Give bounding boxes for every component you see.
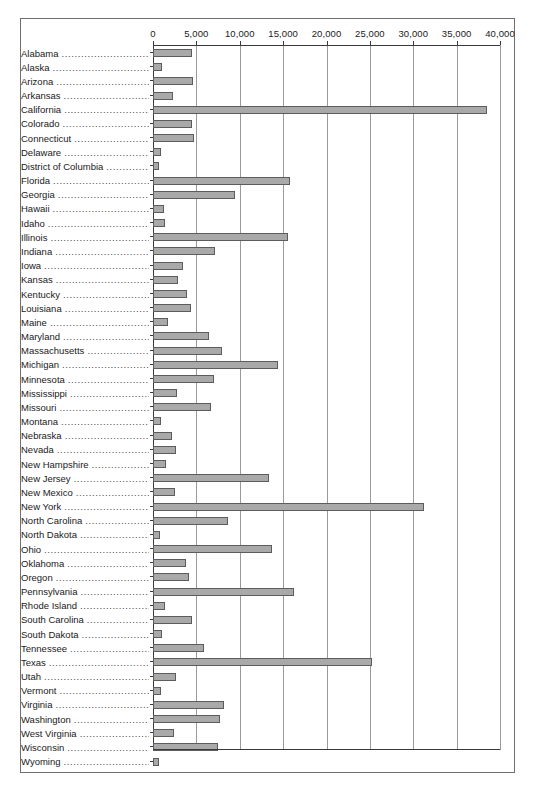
category-label: Oregon..................................… — [21, 570, 149, 584]
category-label-text: Illinois — [21, 231, 50, 244]
category-label: Idaho...................................… — [21, 216, 149, 230]
category-label: Utah....................................… — [21, 670, 149, 684]
category-label: Virginia................................… — [21, 698, 149, 712]
bar-row: South Carolina..........................… — [153, 613, 500, 627]
category-label: Illinois................................… — [21, 230, 149, 244]
category-label: Pennsylvania............................… — [21, 585, 149, 599]
bar — [153, 205, 164, 213]
bar — [153, 375, 214, 383]
category-label-text: Oklahoma — [21, 557, 67, 570]
dot-leader: ........................................… — [44, 670, 149, 683]
category-label-text: West Virginia — [21, 727, 80, 740]
bar — [153, 531, 160, 539]
bar — [153, 417, 161, 425]
bar-row: California..............................… — [153, 103, 500, 117]
category-label-text: Massachusetts — [21, 344, 87, 357]
bar — [153, 191, 235, 199]
category-label: New Mexico..............................… — [21, 485, 149, 499]
dot-leader: ........................................… — [59, 684, 149, 697]
bar-row: New Hampshire...........................… — [153, 457, 500, 471]
bar-row: Kansas..................................… — [153, 273, 500, 287]
category-label-text: Michigan — [21, 358, 62, 371]
plot-area: Alabama.................................… — [153, 45, 500, 750]
category-label: New Jersey..............................… — [21, 471, 149, 485]
category-label-text: Virginia — [21, 698, 56, 711]
x-axis-tick-mark — [457, 41, 458, 45]
bar — [153, 701, 224, 709]
category-label-text: Alaska — [21, 61, 53, 74]
category-label-text: Ohio — [21, 543, 44, 556]
bar-row: South Dakota............................… — [153, 627, 500, 641]
x-axis-tick-labels: 05,00010,00015,00020,00025,00030,00035,0… — [21, 28, 514, 42]
dot-leader: ........................................… — [76, 486, 149, 499]
bar-row: Montana.................................… — [153, 414, 500, 428]
bar — [153, 446, 176, 454]
bar — [153, 347, 222, 355]
x-axis-tick-mark — [500, 41, 501, 45]
bar-row: New Jersey..............................… — [153, 471, 500, 485]
category-label: Georgia.................................… — [21, 188, 149, 202]
dot-leader: ........................................… — [56, 75, 149, 88]
bar-row: Wyoming.................................… — [153, 755, 500, 769]
category-label: Louisiana...............................… — [21, 301, 149, 315]
category-label: Arkansas................................… — [21, 89, 149, 103]
bar-row: Kentucky................................… — [153, 287, 500, 301]
dot-leader: ........................................… — [64, 89, 149, 102]
x-axis-tick-label: 5,000 — [184, 28, 208, 39]
category-label-text: Idaho — [21, 217, 48, 230]
dot-leader: ........................................… — [106, 160, 149, 173]
x-axis-tick-mark — [196, 41, 197, 45]
category-label-text: Indiana — [21, 245, 55, 258]
x-axis-tick-label: 15,000 — [268, 28, 298, 39]
category-label-text: Arkansas — [21, 89, 64, 102]
category-label: Montana.................................… — [21, 414, 149, 428]
category-label: South Carolina..........................… — [21, 613, 149, 627]
category-label-text: Maine — [21, 316, 50, 329]
category-label: New Hampshire...........................… — [21, 457, 149, 471]
category-label-text: Kentucky — [21, 288, 63, 301]
bar — [153, 644, 204, 652]
category-label: Hawaii..................................… — [21, 202, 149, 216]
x-axis-tick-mark — [327, 41, 328, 45]
bar-row: Pennsylvania............................… — [153, 585, 500, 599]
bar-row: Nevada..................................… — [153, 443, 500, 457]
chart-frame: 05,00010,00015,00020,00025,00030,00035,0… — [20, 18, 515, 773]
category-label-text: Georgia — [21, 188, 58, 201]
dot-leader: ........................................… — [67, 557, 149, 570]
category-label-text: Vermont — [21, 684, 59, 697]
dot-leader: ........................................… — [74, 132, 149, 145]
dot-leader: ........................................… — [53, 174, 149, 187]
dot-leader: ........................................… — [61, 415, 149, 428]
dot-leader: ........................................… — [64, 755, 149, 768]
x-axis-tick-label: 30,000 — [398, 28, 428, 39]
bar-rows: Alabama.................................… — [153, 46, 500, 750]
category-label: Delaware................................… — [21, 145, 149, 159]
bar — [153, 106, 487, 114]
dot-leader: ........................................… — [63, 330, 149, 343]
dot-leader: ........................................… — [80, 528, 149, 541]
category-label-text: Tennessee — [21, 642, 70, 655]
category-label-text: Nebraska — [21, 429, 65, 442]
bar — [153, 318, 168, 326]
bar — [153, 573, 189, 581]
category-label: Maine...................................… — [21, 315, 149, 329]
x-axis-tick-mark — [370, 41, 371, 45]
dot-leader: ........................................… — [53, 202, 149, 215]
bar-row: Washington..............................… — [153, 712, 500, 726]
category-label-text: Minnesota — [21, 373, 68, 386]
dot-leader: ........................................… — [80, 727, 149, 740]
category-label: California..............................… — [21, 103, 149, 117]
bar — [153, 743, 218, 751]
dot-leader: ........................................… — [68, 373, 149, 386]
bar — [153, 673, 176, 681]
bar-row: Hawaii..................................… — [153, 202, 500, 216]
bar-row: Florida.................................… — [153, 174, 500, 188]
bar — [153, 233, 288, 241]
gridline — [500, 45, 501, 750]
category-label-text: Connecticut — [21, 132, 74, 145]
category-label-text: New York — [21, 500, 64, 513]
bar-row: Louisiana...............................… — [153, 301, 500, 315]
category-label-text: North Carolina — [21, 514, 85, 527]
dot-leader: ........................................… — [49, 656, 149, 669]
category-label: Indiana.................................… — [21, 244, 149, 258]
